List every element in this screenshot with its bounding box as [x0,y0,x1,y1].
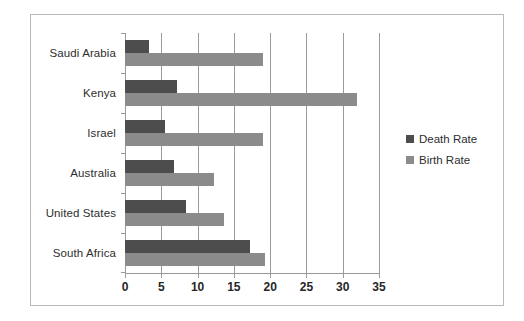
bar-group-israel [125,113,379,153]
value-tick-25 [306,273,307,278]
legend-label-death-rate: Death Rate [419,133,477,145]
value-tick-5 [161,273,162,278]
value-axis-labels: 05101520253035 [125,280,380,300]
category-axis: Saudi Arabia Kenya Israel Australia Unit… [31,33,123,273]
value-tick-label-5: 5 [158,280,165,294]
bar-group-south-africa [125,233,379,273]
value-tick-label-10: 10 [191,280,204,294]
value-tick-label-25: 25 [300,280,313,294]
value-axis-ticks [125,273,380,279]
bar-death-rate-south-africa[interactable] [125,240,250,253]
bar-death-rate-kenya[interactable] [125,80,177,93]
chart-frame: Saudi Arabia Kenya Israel Australia Unit… [30,14,504,306]
plot-area [125,33,379,273]
bar-group-australia [125,153,379,193]
category-tick [121,33,125,34]
category-tick [121,153,125,154]
bar-birth-rate-south-africa[interactable] [125,253,265,266]
value-tick-label-30: 30 [336,280,349,294]
value-tick-label-0: 0 [122,280,129,294]
value-tick-label-20: 20 [263,280,276,294]
bar-death-rate-united-states[interactable] [125,200,186,213]
bar-group-kenya [125,73,379,113]
category-tick [121,113,125,114]
legend-swatch-icon-death-rate [406,135,414,143]
value-tick-35 [379,273,380,278]
bar-death-rate-australia[interactable] [125,160,174,173]
bar-birth-rate-australia[interactable] [125,173,214,186]
bar-group-united-states [125,193,379,233]
category-label-australia: Australia [31,153,123,193]
value-tick-20 [270,273,271,278]
bar-death-rate-israel[interactable] [125,120,165,133]
bar-death-rate-saudi-arabia[interactable] [125,40,149,53]
category-label-kenya: Kenya [31,73,123,113]
legend-item-death-rate[interactable]: Death Rate [406,133,501,145]
gridline-35 [379,33,380,273]
bar-birth-rate-kenya[interactable] [125,93,357,106]
category-tick [121,193,125,194]
value-tick-10 [198,273,199,278]
category-label-south-africa: South Africa [31,233,123,273]
category-label-israel: Israel [31,113,123,153]
bar-groups [125,33,379,273]
value-tick-15 [234,273,235,278]
bar-birth-rate-saudi-arabia[interactable] [125,53,263,66]
legend-label-birth-rate: Birth Rate [419,154,470,166]
legend-swatch-icon-birth-rate [406,156,414,164]
category-label-united-states: United States [31,193,123,233]
bar-birth-rate-united-states[interactable] [125,213,224,226]
bar-group-saudi-arabia [125,33,379,73]
bar-birth-rate-israel[interactable] [125,133,263,146]
value-tick-30 [343,273,344,278]
category-label-saudi-arabia: Saudi Arabia [31,33,123,73]
category-tick [121,73,125,74]
value-tick-0 [125,273,126,278]
value-tick-label-35: 35 [372,280,385,294]
chart-legend: Death Rate Birth Rate [406,133,501,175]
value-tick-label-15: 15 [227,280,240,294]
category-tick [121,233,125,234]
legend-item-birth-rate[interactable]: Birth Rate [406,154,501,166]
